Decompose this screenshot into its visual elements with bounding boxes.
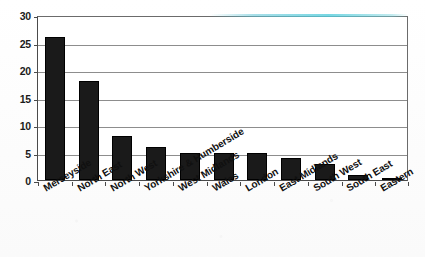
x-axis-tick <box>408 182 409 186</box>
y-axis-tick <box>34 17 38 18</box>
gridline <box>38 45 407 46</box>
y-axis-tick-label: 10 <box>20 121 31 132</box>
y-axis-tick <box>34 100 38 101</box>
gridline <box>38 72 407 73</box>
y-axis-tick <box>34 45 38 46</box>
x-axis-tick-labels: MerseysideNorth EastNorth WestYorkshire … <box>37 181 408 257</box>
y-axis-tick-label: 15 <box>20 93 31 104</box>
y-axis-tick-labels: 051015202530 <box>0 16 31 181</box>
y-axis-tick <box>34 72 38 73</box>
y-axis-tick-label: 30 <box>20 11 31 22</box>
bar <box>45 37 65 180</box>
y-axis-tick-label: 5 <box>25 148 31 159</box>
y-axis-tick-label: 0 <box>25 176 31 187</box>
y-axis-tick-label: 20 <box>20 66 31 77</box>
y-axis-tick <box>34 155 38 156</box>
y-axis-tick <box>34 127 38 128</box>
bar-chart: 051015202530 MerseysideNorth EastNorth W… <box>0 0 425 257</box>
y-axis-tick-label: 25 <box>20 38 31 49</box>
